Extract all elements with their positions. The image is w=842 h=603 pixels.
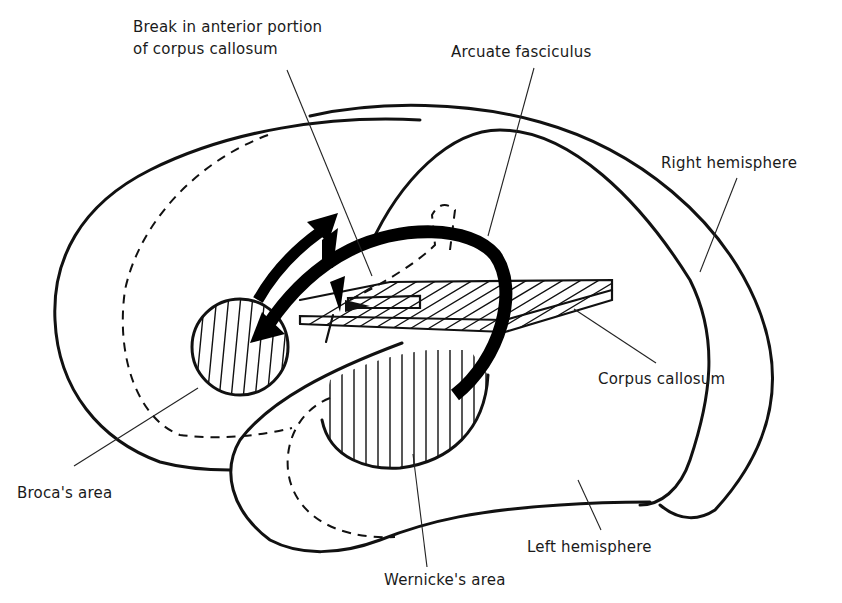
label-right-hemisphere: Right hemisphere: [661, 154, 797, 173]
left-hemisphere-frontal-outline: [55, 119, 420, 470]
leader-wernickes: [413, 454, 427, 567]
label-break-line1: Break in anterior portion: [133, 18, 322, 37]
leader-arcuate: [488, 68, 534, 236]
arcuate-fasciculus-arrow: [268, 232, 506, 395]
corpus-callosum-slab: [300, 270, 634, 332]
label-corpus-callosum: Corpus callosum: [598, 370, 725, 389]
label-arcuate-fasciculus: Arcuate fasciculus: [451, 43, 591, 62]
wernickes-area-region: [322, 350, 488, 480]
leader-brocas: [74, 388, 198, 466]
left-hemisphere-temporal-outline: [231, 343, 650, 552]
label-break-line2: of corpus callosum: [133, 40, 278, 59]
label-brocas-area: Broca's area: [17, 484, 112, 503]
label-wernickes-area: Wernicke's area: [384, 571, 506, 590]
brain-drawing: [0, 0, 842, 603]
label-left-hemisphere: Left hemisphere: [527, 538, 652, 557]
brain-diagram: Break in anterior portion of corpus call…: [0, 0, 842, 603]
leader-corpus-callosum: [574, 309, 656, 363]
